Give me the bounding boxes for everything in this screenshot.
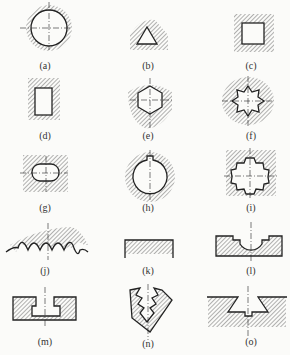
figure-g-obround-hole — [20, 155, 68, 192]
label-h: (h) — [133, 202, 163, 213]
label-c: (c) — [236, 60, 266, 71]
label-o: (o) — [236, 336, 266, 347]
label-n: (n) — [133, 338, 163, 349]
figure-m-t-slot — [13, 287, 76, 327]
label-m: (m) — [30, 336, 60, 347]
label-e: (e) — [133, 130, 163, 141]
figure-d-rectangular-hole — [28, 78, 60, 120]
figure-n-serrated-v-groove — [130, 284, 172, 340]
figure-b-triangular-hole — [130, 20, 168, 50]
label-d: (d) — [30, 130, 60, 141]
figure-k-flat-surface — [125, 240, 173, 258]
figure-j-wavy-surface — [6, 223, 88, 260]
label-j: (j) — [30, 265, 60, 276]
label-i: (i) — [236, 202, 266, 213]
figure-l-stepped-groove — [216, 222, 282, 262]
label-l: (l) — [236, 265, 266, 276]
figure-e-hexagonal-hole — [128, 78, 172, 128]
figure-i-gear-spline-hole — [224, 148, 278, 200]
label-a: (a) — [30, 60, 60, 71]
figure-h-keyway-hole — [125, 150, 175, 202]
profiles-diagram — [0, 0, 290, 355]
label-b: (b) — [133, 60, 163, 71]
label-g: (g) — [30, 202, 60, 213]
figure-c-square-hole — [234, 14, 274, 52]
figure-o-dovetail-slot — [207, 286, 287, 338]
figure-a-circular-hole — [20, 2, 72, 51]
label-f: (f) — [236, 130, 266, 141]
figure-f-pointed-spline-hole — [222, 76, 274, 127]
label-k: (k) — [133, 265, 163, 276]
